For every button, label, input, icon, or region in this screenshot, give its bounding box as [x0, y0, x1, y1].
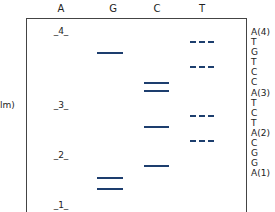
seq-item: C — [251, 67, 270, 77]
band-t-3 — [190, 115, 214, 117]
seq-item: C — [251, 108, 270, 118]
band-g-1 — [97, 52, 123, 54]
lane-label-t: T — [192, 3, 212, 14]
seq-item: A(3) — [251, 88, 270, 98]
seq-item: T — [251, 118, 270, 128]
seq-item: C — [251, 138, 270, 148]
marker-4: _4_ — [41, 26, 81, 36]
band-g-2 — [97, 177, 123, 179]
band-c-1 — [144, 82, 169, 84]
seq-item: A(4) — [251, 27, 270, 37]
band-g-3 — [97, 188, 123, 190]
seq-item: G — [251, 148, 270, 158]
band-t-4 — [190, 140, 214, 142]
seq-item: T — [251, 37, 270, 47]
seq-item: G — [251, 158, 270, 168]
lane-label-c: C — [147, 3, 167, 14]
seq-item: A(2) — [251, 128, 270, 138]
y-axis-label: lm) — [0, 100, 15, 110]
lane-label-g: G — [103, 3, 123, 14]
seq-item: G — [251, 47, 270, 57]
band-c-2 — [144, 90, 169, 92]
band-c-4 — [144, 165, 169, 167]
band-t-2 — [190, 66, 214, 68]
seq-item: C — [251, 77, 270, 87]
marker-2: _2_ — [41, 150, 81, 160]
sequence-readout: A(4) T G T C C A(3) T C T A(2) C G G A(1… — [251, 27, 270, 178]
marker-3: _3_ — [41, 100, 81, 110]
seq-item: T — [251, 98, 270, 108]
lane-label-a: A — [51, 3, 71, 14]
seq-item: T — [251, 57, 270, 67]
band-t-1 — [190, 41, 214, 43]
marker-1: _1_ — [41, 200, 81, 210]
band-c-3 — [144, 126, 169, 128]
seq-item: A(1) — [251, 168, 270, 178]
